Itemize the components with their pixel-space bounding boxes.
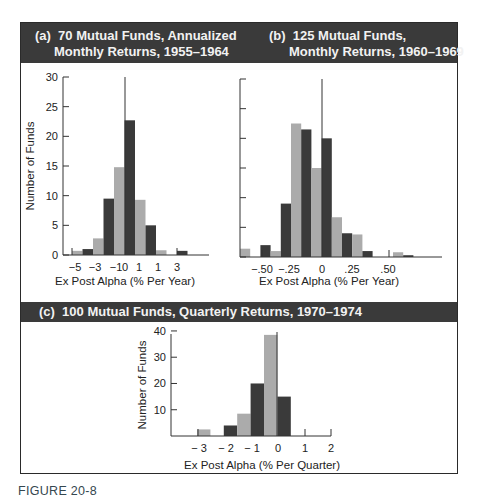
histogram-bar [264, 335, 277, 436]
x-axis-label: Ex Post Alpha (% Per Year) [259, 275, 399, 287]
x-tick-label: −3 [89, 261, 102, 273]
x-tick-label: − 2 [218, 442, 234, 454]
y-tick-label: 10 [154, 404, 166, 416]
x-axis-label: Ex Post Alpha (% Per Year) [55, 275, 195, 287]
histogram-bar [156, 250, 167, 255]
histogram-bar [197, 429, 210, 436]
x-tick-label: 0 [122, 261, 128, 273]
histogram-bar [301, 129, 311, 257]
x-tick-label: −5 [69, 261, 82, 273]
x-tick-label: 0 [319, 263, 325, 275]
charts-svg: 051015202530−5−3−10113Ex Post Alpha (% P… [0, 0, 481, 501]
histogram-bar [332, 217, 342, 257]
histogram-bar [362, 251, 372, 257]
x-tick-label: .50 [380, 263, 395, 275]
x-tick-label: .25 [344, 263, 359, 275]
histogram-bar [146, 225, 157, 255]
y-tick-label: 40 [154, 325, 166, 337]
y-tick-label: 0 [52, 249, 58, 261]
x-tick-label: 0 [275, 442, 281, 454]
histogram-bar [114, 167, 125, 255]
x-tick-label: 1 [136, 261, 142, 273]
y-axis-label: Number of Funds [136, 340, 148, 429]
histogram-bar [281, 204, 291, 257]
histogram-bar [342, 233, 352, 257]
x-tick-label: −1 [110, 261, 123, 273]
histogram-bar [240, 249, 250, 257]
x-tick-label: 1 [302, 442, 308, 454]
histogram-bar [72, 251, 83, 255]
histogram-bar [271, 251, 281, 257]
x-tick-label: 3 [174, 261, 180, 273]
y-tick-label: 25 [46, 101, 58, 113]
x-tick-label: − 1 [244, 442, 260, 454]
histogram-bar [291, 124, 301, 258]
histogram-bar [251, 383, 264, 436]
x-tick-label: 2 [328, 442, 334, 454]
y-tick-label: 30 [46, 71, 58, 83]
x-tick-label: −.25 [278, 263, 300, 275]
figure-label: FIGURE 20-8 [18, 484, 97, 498]
histogram-bar [135, 200, 146, 255]
y-tick-label: 30 [154, 351, 166, 363]
histogram-bar [93, 238, 104, 255]
x-tick-label: −.50 [251, 263, 273, 275]
histogram-bar [352, 234, 362, 257]
y-tick-label: 20 [154, 377, 166, 389]
histogram-bar [277, 397, 290, 436]
histogram-bar [125, 120, 136, 255]
y-axis-label: Number of Funds [24, 121, 36, 210]
histogram-bar [224, 425, 237, 436]
y-tick-label: 5 [52, 219, 58, 231]
histogram-bar [322, 138, 332, 257]
y-tick-label: 10 [46, 190, 58, 202]
histogram-bar [104, 199, 115, 255]
histogram-bar [393, 252, 403, 257]
y-tick-label: 15 [46, 160, 58, 172]
x-tick-label: 1 [155, 261, 161, 273]
x-axis-label: Ex Post Alpha (% Per Quarter) [184, 459, 340, 471]
histogram-bar [311, 168, 321, 257]
y-tick-label: 20 [46, 130, 58, 142]
histogram-bar [237, 414, 250, 436]
x-tick-label: − 3 [191, 442, 207, 454]
histogram-bar [177, 251, 188, 255]
histogram-bar [83, 249, 94, 255]
